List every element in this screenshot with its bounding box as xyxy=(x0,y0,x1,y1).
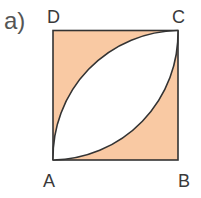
square-lens-figure xyxy=(0,0,201,198)
part-label: a) xyxy=(4,9,25,33)
vertex-label-b: B xyxy=(178,172,190,190)
vertex-label-a: A xyxy=(43,172,55,190)
vertex-label-c: C xyxy=(172,8,185,26)
vertex-label-d: D xyxy=(47,8,60,26)
geometry-diagram: a) D C A B xyxy=(0,0,201,198)
